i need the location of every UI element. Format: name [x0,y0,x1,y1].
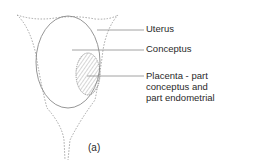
uterus-label: Uterus [146,24,174,35]
placenta-label-line-1: Placenta - part [146,71,208,82]
panel-label: (a) [88,142,100,153]
uterus-outline [17,15,118,160]
placenta-label-line-2: conceptus and [146,82,208,93]
placenta-label-line-3: part endometrial [146,93,215,104]
conceptus-label: Conceptus [146,44,191,55]
uterus-diagram [0,0,262,164]
placenta-region [76,53,100,95]
